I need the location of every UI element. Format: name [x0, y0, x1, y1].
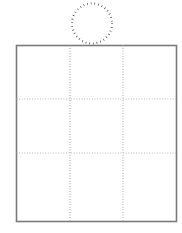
solid-square[interactable]: [17, 46, 177, 222]
diagram-svg: [0, 0, 182, 233]
diagram-canvas: [0, 0, 182, 233]
